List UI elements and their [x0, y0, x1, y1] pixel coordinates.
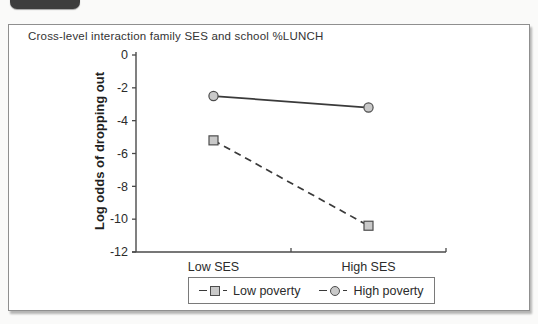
data-point-square: [209, 136, 218, 145]
dash-segment: [223, 290, 227, 291]
square-marker-icon: [210, 286, 220, 296]
high-poverty-key-icon: [319, 286, 347, 296]
legend-item-high-poverty: High poverty: [319, 284, 423, 298]
series-line-low-poverty: [214, 140, 369, 225]
y-tick-label: -8: [117, 180, 128, 194]
y-tick-label: -12: [110, 245, 128, 259]
x-category-label: High SES: [341, 260, 395, 274]
circle-marker-icon: [330, 286, 340, 296]
low-poverty-key-icon: [199, 286, 227, 296]
dash-segment: [319, 290, 327, 291]
chart-panel: Cross-level interaction family SES and s…: [8, 24, 530, 311]
y-tick-label: -10: [110, 212, 128, 226]
legend-item-low-poverty: Low poverty: [199, 284, 300, 298]
y-tick-label: -2: [117, 81, 128, 95]
y-tick-label: 0: [121, 48, 128, 62]
x-category-label: Low SES: [188, 260, 239, 274]
legend: Low poverty High poverty: [188, 277, 435, 304]
y-tick-label: -4: [117, 114, 128, 128]
dash-segment: [199, 290, 207, 291]
data-point-circle: [209, 91, 218, 100]
series-line-high-poverty: [214, 96, 369, 107]
figure-tab-badge: [10, 0, 80, 9]
legend-label-high-poverty: High poverty: [353, 284, 423, 298]
data-point-square: [364, 221, 373, 230]
y-tick-label: -6: [117, 147, 128, 161]
legend-label-low-poverty: Low poverty: [233, 284, 300, 298]
data-point-circle: [364, 103, 373, 112]
plot-svg: 0-2-4-6-8-10-12Low SESHigh SES: [9, 25, 527, 308]
dash-segment: [343, 290, 347, 291]
